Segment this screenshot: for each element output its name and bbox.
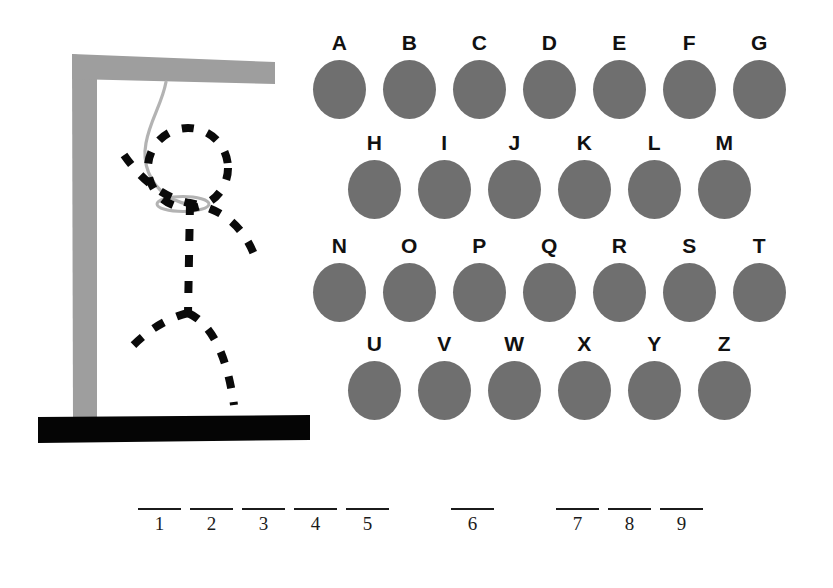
letter-key-g[interactable]: G <box>733 31 786 121</box>
letter-key-disc <box>348 361 401 420</box>
letter-key-w[interactable]: W <box>488 332 541 422</box>
letter-key-label: N <box>332 234 348 258</box>
answer-slot-5: 5 <box>346 500 389 546</box>
letter-key-label: L <box>648 131 661 155</box>
answer-slot-2: 2 <box>190 500 233 546</box>
letter-key-o[interactable]: O <box>383 234 436 324</box>
letter-key-e[interactable]: E <box>593 31 646 121</box>
keyboard-row-1: A B C D E F G <box>313 31 786 131</box>
letter-key-k[interactable]: K <box>558 131 611 221</box>
letter-key-disc <box>383 263 436 322</box>
letter-key-disc <box>593 263 646 322</box>
answer-slot-9: 9 <box>660 500 703 546</box>
answer-slot-6: 6 <box>451 500 494 546</box>
gallows-base-icon <box>38 415 310 443</box>
letter-key-z[interactable]: Z <box>698 332 751 422</box>
hangman-game: A B C D E F G <box>0 0 833 588</box>
letter-key-disc <box>348 160 401 219</box>
letter-key-label: H <box>367 131 383 155</box>
answer-slot-line <box>294 508 337 510</box>
letter-key-c[interactable]: C <box>453 31 506 121</box>
letter-key-y[interactable]: Y <box>628 332 681 422</box>
answer-slot-line <box>608 508 651 510</box>
letter-key-t[interactable]: T <box>733 234 786 324</box>
answer-slot-line <box>346 508 389 510</box>
answer-slot-index: 4 <box>294 513 337 535</box>
answer-slot-line <box>451 508 494 510</box>
letter-key-label: P <box>472 234 487 258</box>
keyboard-row-2: H I J K L M <box>348 131 751 231</box>
letter-key-i[interactable]: I <box>418 131 471 221</box>
figure-right-leg-icon <box>188 313 234 405</box>
letter-key-label: Q <box>541 234 558 258</box>
keyboard-row-4: U V W X Y Z <box>348 332 751 432</box>
answer-slot-7: 7 <box>556 500 599 546</box>
letter-key-s[interactable]: S <box>663 234 716 324</box>
letter-key-disc <box>418 361 471 420</box>
letter-key-h[interactable]: H <box>348 131 401 221</box>
letter-key-f[interactable]: F <box>663 31 716 121</box>
letter-key-j[interactable]: J <box>488 131 541 221</box>
letter-key-label: R <box>612 234 628 258</box>
answer-slot-line <box>190 508 233 510</box>
letter-key-label: C <box>472 31 488 55</box>
letter-key-a[interactable]: A <box>313 31 366 121</box>
letter-key-disc <box>663 60 716 119</box>
letter-key-label: E <box>612 31 627 55</box>
answer-slot-index: 6 <box>451 513 494 535</box>
letter-key-label: J <box>508 131 520 155</box>
letter-key-disc <box>558 361 611 420</box>
letter-key-label: S <box>682 234 697 258</box>
letter-key-disc <box>558 160 611 219</box>
letter-key-disc <box>628 361 681 420</box>
letter-key-b[interactable]: B <box>383 31 436 121</box>
letter-key-disc <box>593 60 646 119</box>
letter-key-label: W <box>504 332 524 356</box>
letter-key-label: Y <box>647 332 662 356</box>
answer-slot-index: 7 <box>556 513 599 535</box>
letter-key-q[interactable]: Q <box>523 234 576 324</box>
letter-key-disc <box>453 263 506 322</box>
letter-key-r[interactable]: R <box>593 234 646 324</box>
answer-slot-line <box>242 508 285 510</box>
letter-key-disc <box>733 263 786 322</box>
letter-key-disc <box>453 60 506 119</box>
gallows-post-icon <box>72 54 97 420</box>
letter-key-label: I <box>441 131 447 155</box>
letter-key-d[interactable]: D <box>523 31 576 121</box>
letter-key-label: Z <box>718 332 731 356</box>
letter-key-l[interactable]: L <box>628 131 681 221</box>
letter-key-m[interactable]: M <box>698 131 751 221</box>
answer-slot-1: 1 <box>138 500 181 546</box>
letter-key-label: F <box>683 31 696 55</box>
letter-key-u[interactable]: U <box>348 332 401 422</box>
answer-slot-index: 1 <box>138 513 181 535</box>
letter-key-disc <box>698 361 751 420</box>
letter-key-x[interactable]: X <box>558 332 611 422</box>
letter-key-disc <box>418 160 471 219</box>
gallows-beam-icon <box>72 54 275 84</box>
letter-key-p[interactable]: P <box>453 234 506 324</box>
letter-key-label: G <box>751 31 768 55</box>
letter-key-disc <box>523 60 576 119</box>
answer-slot-index: 9 <box>660 513 703 535</box>
letter-key-disc <box>488 160 541 219</box>
answer-slot-index: 5 <box>346 513 389 535</box>
answer-slot-line <box>556 508 599 510</box>
letter-key-disc <box>488 361 541 420</box>
letter-key-disc <box>313 60 366 119</box>
letter-key-v[interactable]: V <box>418 332 471 422</box>
figure-torso-icon <box>188 203 190 313</box>
letter-key-label: T <box>753 234 766 258</box>
answer-slot-line <box>660 508 703 510</box>
letter-key-disc <box>383 60 436 119</box>
answer-slot-4: 4 <box>294 500 337 546</box>
letter-key-n[interactable]: N <box>313 234 366 324</box>
letter-key-label: U <box>367 332 383 356</box>
letter-key-label: X <box>577 332 592 356</box>
letter-key-label: K <box>577 131 593 155</box>
answer-slot-8: 8 <box>608 500 651 546</box>
letter-key-label: M <box>716 131 734 155</box>
letter-key-disc <box>733 60 786 119</box>
answer-slot-index: 8 <box>608 513 651 535</box>
